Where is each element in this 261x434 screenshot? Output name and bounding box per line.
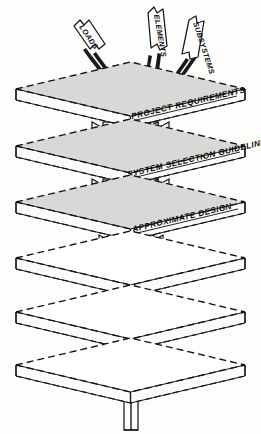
exploded-stack-diagram: LOADS ELEMENTS SUBSYSTEMS: [0, 0, 261, 434]
plate-3: APPROXIMATE DESIGN: [16, 175, 245, 240]
diagram-canvas: LOADS ELEMENTS SUBSYSTEMS: [0, 0, 261, 434]
plate-6: [16, 338, 245, 403]
plate-2: SYSTEM SELECTION GUIDELINES: [16, 119, 261, 184]
